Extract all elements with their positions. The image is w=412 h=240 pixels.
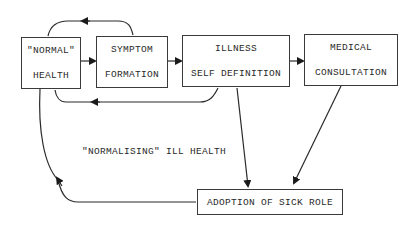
arrow-illness-to-adoption: [237, 88, 248, 186]
node-symptom-formation-line2: FORMATION: [105, 69, 159, 80]
node-adoption-line1: ADOPTION OF SICK ROLE: [207, 197, 333, 208]
node-normal-health: "NORMAL" HEALTH: [21, 37, 81, 89]
node-medical-line1: MEDICAL: [330, 42, 372, 53]
node-illness-line1: ILLNESS: [215, 43, 257, 54]
loop-illness-to-normal: [55, 88, 218, 102]
node-medical-line2: CONSULTATION: [315, 67, 387, 78]
node-illness-line2: SELF DEFINITION: [191, 68, 281, 79]
node-adoption-sick-role: ADOPTION OF SICK ROLE: [197, 189, 343, 215]
node-symptom-formation: SYMPTOM FORMATION: [96, 36, 168, 88]
node-normal-health-line1: "NORMAL": [27, 45, 75, 56]
annotation-normalising-ill-health: "NORMALISING" ILL HEALTH: [82, 146, 226, 157]
loop-symptom-to-normal: [48, 21, 133, 36]
node-symptom-formation-line1: SYMPTOM: [111, 44, 153, 55]
node-medical-consultation: MEDICAL CONSULTATION: [304, 34, 398, 86]
node-normal-health-line2: HEALTH: [33, 70, 69, 81]
node-illness-self-definition: ILLNESS SELF DEFINITION: [182, 35, 290, 87]
arrow-medical-to-adoption: [294, 86, 341, 183]
